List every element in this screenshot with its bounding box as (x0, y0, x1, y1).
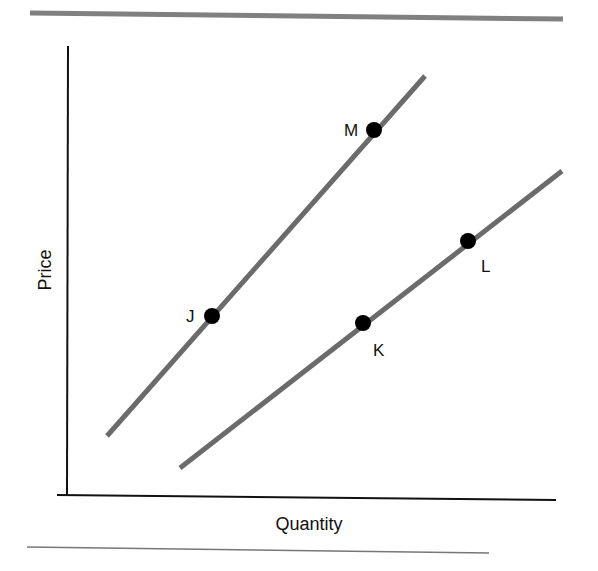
label-j: J (186, 307, 195, 326)
x-axis-label: Quantity (275, 514, 342, 534)
chart-figure: M J K L Quantity Price (0, 0, 598, 571)
point-l (460, 233, 476, 249)
y-axis (67, 46, 68, 495)
point-j (204, 308, 220, 324)
top-rule (30, 13, 563, 19)
bottom-rule (27, 547, 489, 553)
label-k: K (373, 341, 385, 360)
x-axis (57, 495, 556, 500)
label-l: L (481, 257, 490, 276)
line-k-l (180, 171, 562, 468)
point-m (366, 122, 382, 138)
point-k (355, 315, 371, 331)
y-axis-label: Price (35, 249, 55, 290)
label-m: M (344, 121, 358, 140)
